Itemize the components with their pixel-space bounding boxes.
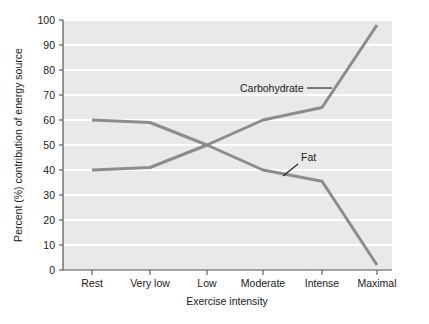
line-chart: 1009080706050403020100 RestVery lowLowMo… <box>0 0 429 324</box>
y-axis-title: Percent (%) contribution of energy sourc… <box>12 48 24 242</box>
y-tick-label-80: 80 <box>43 64 55 76</box>
y-tick-label-50: 50 <box>43 139 55 151</box>
chart-figure: 1009080706050403020100 RestVery lowLowMo… <box>0 0 429 324</box>
x-tick-label-maximal: Maximal <box>357 277 396 289</box>
x-tick-label-intense: Intense <box>305 277 340 289</box>
y-tick-label-30: 30 <box>43 189 55 201</box>
x-axis-title: Exercise intensity <box>186 295 268 307</box>
y-tick-label-10: 10 <box>43 239 55 251</box>
fat-series-label: Fat <box>301 151 316 163</box>
carbohydrate-series-label: Carbohydrate <box>240 82 304 94</box>
x-tick-label-rest: Rest <box>81 277 103 289</box>
y-tick-label-90: 90 <box>43 39 55 51</box>
x-tick-label-very-low: Very low <box>130 277 170 289</box>
x-axis: RestVery lowLowModerateIntenseMaximal <box>81 270 396 289</box>
y-tick-label-20: 20 <box>43 214 55 226</box>
x-tick-label-moderate: Moderate <box>241 277 286 289</box>
y-tick-label-100: 100 <box>37 14 55 26</box>
y-tick-label-0: 0 <box>49 264 55 276</box>
y-tick-label-70: 70 <box>43 89 55 101</box>
x-tick-label-low: Low <box>197 277 217 289</box>
y-axis: 1009080706050403020100 <box>37 14 63 276</box>
y-tick-label-60: 60 <box>43 114 55 126</box>
y-tick-label-40: 40 <box>43 164 55 176</box>
